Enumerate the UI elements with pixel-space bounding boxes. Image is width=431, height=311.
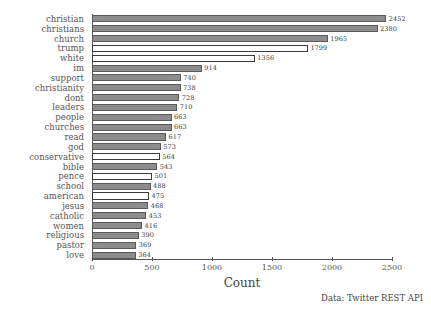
bar-row: 1965 <box>92 35 392 42</box>
y-label-trump: trump <box>58 43 84 53</box>
y-label-im: im <box>73 63 84 73</box>
bar-dont <box>92 94 179 101</box>
bar-row: 728 <box>92 94 392 101</box>
x-tick-label: 0 <box>89 263 94 272</box>
bar-value-label: 710 <box>180 103 193 111</box>
y-label-people: people <box>55 112 84 122</box>
bar-value-label: 740 <box>183 74 196 82</box>
bar-read <box>92 133 166 140</box>
bar-bible <box>92 163 157 170</box>
bar-row: 468 <box>92 202 392 209</box>
y-label-church: church <box>54 34 84 44</box>
bar-row: 390 <box>92 232 392 239</box>
bar-chart: christianchristianschurchtrumpwhiteimsup… <box>0 0 431 311</box>
bar-value-label: 475 <box>152 192 165 200</box>
x-tickmark <box>332 257 333 261</box>
bar-white <box>92 55 255 62</box>
y-label-religious: religious <box>46 230 84 240</box>
bar-christianity <box>92 84 181 91</box>
x-tick-label: 2000 <box>322 263 342 272</box>
plot-area: 2452238019651799135691474073872871066366… <box>92 14 392 260</box>
bar-churches <box>92 124 172 131</box>
bar-row: 475 <box>92 192 392 199</box>
bar-women <box>92 222 142 229</box>
y-label-jesus: jesus <box>62 201 84 211</box>
bar-pence <box>92 173 152 180</box>
bar-im <box>92 65 202 72</box>
y-label-god: god <box>68 142 84 152</box>
y-label-christianity: christianity <box>35 83 84 93</box>
x-axis-ticks: 05001000150020002500 <box>92 261 392 275</box>
bar-row: 488 <box>92 183 392 190</box>
x-tick-label: 500 <box>144 263 159 272</box>
bar-value-label: 663 <box>174 123 187 131</box>
bar-christians <box>92 25 378 32</box>
y-label-pence: pence <box>58 171 84 181</box>
bar-row: 914 <box>92 65 392 72</box>
x-tickmark <box>92 257 93 261</box>
y-label-american: american <box>44 191 84 201</box>
bar-religious <box>92 232 139 239</box>
x-axis-title: Count <box>92 276 392 290</box>
bar-row: 543 <box>92 163 392 170</box>
y-label-christians: christians <box>42 24 84 34</box>
x-tick-label: 1500 <box>262 263 282 272</box>
y-label-christian: christian <box>46 14 84 24</box>
bar-row: 740 <box>92 74 392 81</box>
bar-row: 573 <box>92 143 392 150</box>
bar-row: 364 <box>92 252 392 259</box>
bar-pastor <box>92 242 136 249</box>
bar-love <box>92 252 136 259</box>
y-label-women: women <box>53 221 84 231</box>
bar-value-label: 573 <box>163 143 176 151</box>
bar-value-label: 369 <box>139 241 152 249</box>
bar-trump <box>92 45 308 52</box>
bar-row: 738 <box>92 84 392 91</box>
source-note: Data: Twitter REST API <box>321 293 423 303</box>
bar-value-label: 1965 <box>330 35 347 43</box>
bar-value-label: 738 <box>183 84 196 92</box>
bar-row: 564 <box>92 153 392 160</box>
bar-row: 369 <box>92 242 392 249</box>
bar-row: 2452 <box>92 15 392 22</box>
y-label-pastor: pastor <box>57 240 84 250</box>
y-label-conservative: conservative <box>29 152 84 162</box>
y-label-dont: dont <box>65 93 84 103</box>
y-label-read: read <box>64 132 84 142</box>
y-label-support: support <box>51 73 84 83</box>
bar-god <box>92 143 161 150</box>
bar-value-label: 564 <box>162 153 175 161</box>
bar-value-label: 914 <box>204 64 217 72</box>
bar-value-label: 390 <box>141 231 154 239</box>
bar-value-label: 1799 <box>310 44 327 52</box>
bar-row: 663 <box>92 124 392 131</box>
bar-row: 1799 <box>92 45 392 52</box>
bar-church <box>92 35 328 42</box>
bar-conservative <box>92 153 160 160</box>
bar-value-label: 543 <box>160 163 173 171</box>
bar-row: 710 <box>92 104 392 111</box>
y-axis-category-labels: christianchristianschurchtrumpwhiteimsup… <box>0 14 88 260</box>
bar-row: 1356 <box>92 55 392 62</box>
y-label-bible: bible <box>63 162 84 172</box>
y-label-churches: churches <box>45 122 84 132</box>
y-label-leaders: leaders <box>52 102 84 112</box>
bar-jesus <box>92 202 148 209</box>
bar-row: 2380 <box>92 25 392 32</box>
bar-row: 453 <box>92 212 392 219</box>
bar-support <box>92 74 181 81</box>
bar-american <box>92 192 149 199</box>
bar-value-label: 2452 <box>389 15 406 23</box>
bar-value-label: 364 <box>138 251 151 259</box>
x-tickmark <box>212 257 213 261</box>
bar-people <box>92 114 172 121</box>
bar-value-label: 453 <box>149 212 162 220</box>
bar-value-label: 501 <box>155 172 168 180</box>
y-label-love: love <box>66 250 84 260</box>
bar-leaders <box>92 104 177 111</box>
bar-row: 416 <box>92 222 392 229</box>
bar-christian <box>92 15 386 22</box>
x-tickmark <box>272 257 273 261</box>
y-label-white: white <box>60 53 84 63</box>
bar-value-label: 488 <box>153 182 166 190</box>
